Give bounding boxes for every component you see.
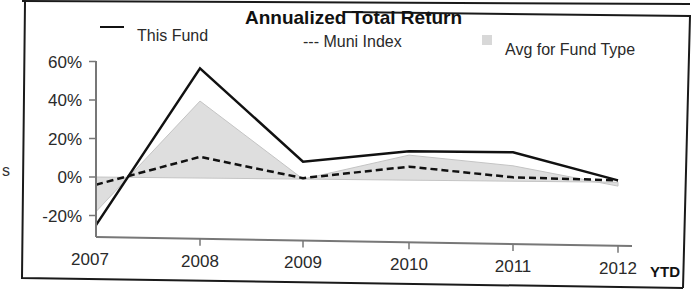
chart: s Annualized Total Return This Fund --- … — [0, 0, 698, 304]
y-tick-label: 40% — [48, 91, 82, 110]
legend-fund-label: This Fund — [137, 27, 208, 44]
legend: This Fund --- Muni Index Avg for Fund Ty… — [100, 27, 635, 58]
y-tick-label: -20% — [42, 207, 82, 226]
y-tick-label: 60% — [48, 53, 82, 72]
y-tick-label: 20% — [48, 130, 82, 149]
y-tick-label: 0% — [57, 168, 82, 187]
stray-text: s — [2, 162, 10, 179]
x-tick-label: 2008 — [181, 252, 219, 271]
ytd-label: YTD — [650, 263, 680, 280]
x-axis: 200720082009201020112012 — [71, 237, 637, 278]
y-axis: -20%0%20%40%60% — [42, 53, 96, 238]
x-tick-label: 2012 — [599, 259, 637, 278]
x-tick-label: 2010 — [390, 255, 428, 274]
legend-avg-label: Avg for Fund Type — [505, 41, 635, 58]
legend-avg-swatch — [482, 35, 492, 45]
top-border-fragment — [22, 1, 690, 4]
x-tick-label: 2009 — [284, 253, 322, 272]
x-tick-label: 2011 — [495, 257, 532, 276]
legend-muni-label: --- Muni Index — [303, 33, 402, 50]
chart-title: Annualized Total Return — [245, 7, 462, 28]
x-tick-label: 2007 — [71, 250, 109, 269]
